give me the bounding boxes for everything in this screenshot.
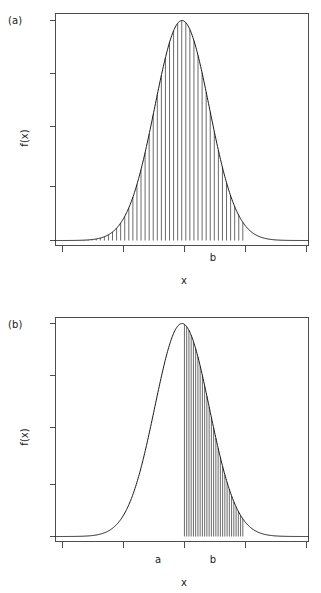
panel-b-tag: (b) [8, 320, 22, 330]
panel-b-y-axis-label: f(x) [20, 422, 30, 452]
panel-b-x-ticks [63, 542, 307, 548]
panel-b-bound-label-b: b [205, 555, 221, 565]
panel-a-tag: (a) [8, 16, 22, 26]
panel-a: (a) f(x) [0, 0, 321, 297]
panel-b-x-axis-label: x [172, 578, 196, 588]
panel-b-shaded-region [184, 324, 242, 536]
panel-a-shaded-region [56, 21, 243, 241]
panel-a-y-axis-label: f(x) [20, 123, 30, 153]
panel-b-y-ticks [50, 324, 56, 537]
panel-a-bound-label-b: b [205, 253, 221, 263]
panel-b-density-curve [56, 324, 309, 537]
panel-a-plot [0, 0, 321, 297]
panel-b-plot [0, 297, 321, 593]
panel-a-x-ticks [63, 246, 307, 252]
figure-normal-distribution-areas: (a) f(x) [0, 0, 321, 593]
panel-b: (b) f(x) [0, 297, 321, 593]
panel-b-bound-label-a: a [150, 555, 166, 565]
panel-b-plot-frame [56, 318, 309, 542]
panel-a-y-ticks [50, 21, 56, 241]
panel-a-x-axis-label: x [172, 276, 196, 286]
